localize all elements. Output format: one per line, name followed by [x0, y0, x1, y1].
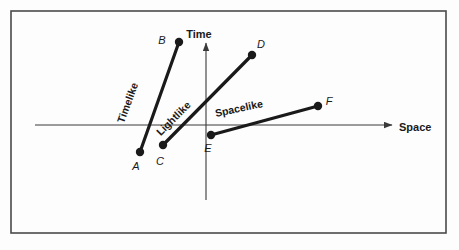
spacelike-label: Spacelike: [214, 97, 264, 119]
event-point-e: [207, 131, 215, 139]
event-label-f: F: [326, 95, 334, 107]
event-label-a: A: [131, 160, 139, 172]
event-point-a: [136, 148, 144, 156]
event-point-c: [159, 141, 167, 149]
diagram-canvas: Space Time Timelike Lightlike Spacelike: [0, 0, 459, 250]
interval-spacelike: Spacelike: [211, 97, 318, 135]
event-point-b: [175, 38, 183, 46]
event-label-e: E: [204, 142, 212, 154]
event-label-b: B: [158, 34, 165, 46]
event-point-d: [248, 51, 256, 59]
event-label-d: D: [257, 38, 265, 50]
intervals-group: Timelike Lightlike Spacelike: [114, 42, 318, 152]
space-axis-label: Space: [399, 121, 431, 133]
time-axis-label: Time: [186, 28, 211, 40]
interval-timelike: Timelike: [114, 42, 179, 152]
lightlike-label: Lightlike: [154, 99, 193, 138]
event-points-group: [136, 38, 322, 156]
event-label-c: C: [156, 155, 164, 167]
event-point-f: [314, 102, 322, 110]
spacetime-diagram-figure: Space Time Timelike Lightlike Spacelike: [0, 0, 459, 250]
lightlike-segment: [163, 55, 252, 145]
timelike-label: Timelike: [114, 81, 140, 125]
figure-border: [11, 11, 446, 233]
